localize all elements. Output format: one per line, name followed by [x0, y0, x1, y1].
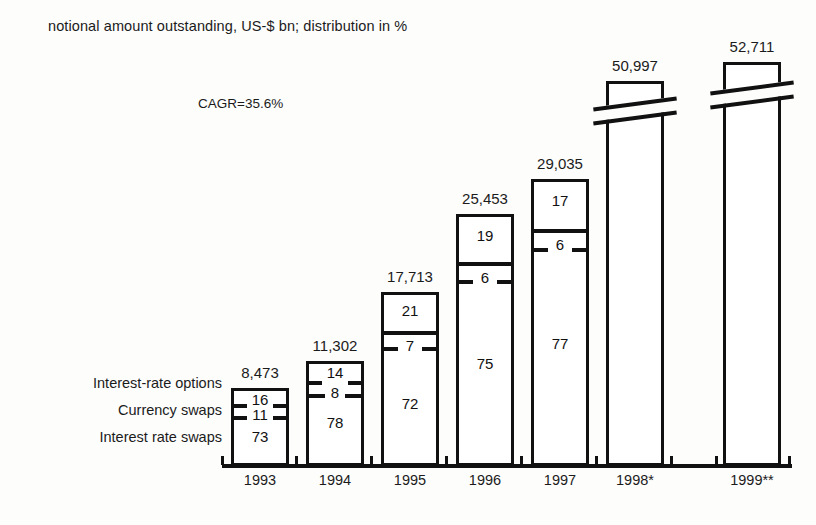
x-axis-tick	[715, 456, 718, 465]
bar-total-label: 52,711	[707, 38, 797, 55]
segment-divider	[534, 229, 586, 233]
bar-total-label: 25,453	[440, 190, 530, 207]
segment-value-label: 72	[381, 395, 439, 412]
bar-1999[interactable]	[723, 62, 781, 466]
x-axis-tick	[295, 456, 298, 465]
bar-total-label: 50,997	[590, 57, 680, 74]
bar-1996[interactable]	[456, 214, 514, 466]
x-axis-label: 1999**	[707, 472, 797, 488]
x-axis-tick	[788, 456, 791, 465]
segment-value-label: 73	[231, 428, 289, 445]
bar-total-label: 11,302	[290, 337, 380, 354]
x-axis-tick	[221, 456, 224, 465]
bar-1997[interactable]	[531, 179, 589, 466]
segment-value-label: 78	[306, 414, 364, 431]
x-axis-label: 1998*	[590, 472, 680, 488]
segment-value-label: 8	[306, 384, 364, 401]
segment-divider	[459, 262, 511, 266]
segment-value-label: 21	[381, 302, 439, 319]
x-axis-tick	[595, 456, 598, 465]
plot-area: 1611738,47319931487811,30219942177217,71…	[0, 0, 816, 525]
bar-total-label: 8,473	[215, 364, 305, 381]
segment-value-label: 11	[231, 406, 289, 423]
x-axis-tick	[670, 456, 673, 465]
segment-value-label: 6	[531, 236, 589, 253]
segment-value-label: 19	[456, 227, 514, 244]
segment-value-label: 6	[456, 269, 514, 286]
x-axis-tick	[370, 456, 373, 465]
x-axis-tick	[445, 456, 448, 465]
chart-canvas: notional amount outstanding, US-$ bn; di…	[0, 0, 816, 525]
bar-1998[interactable]	[606, 81, 664, 466]
segment-value-label: 14	[306, 364, 364, 381]
x-axis-tick	[520, 456, 523, 465]
segment-value-label: 7	[381, 337, 439, 354]
bar-total-label: 29,035	[515, 155, 605, 172]
segment-value-label: 75	[456, 355, 514, 372]
segment-value-label: 17	[531, 192, 589, 209]
bar-total-label: 17,713	[365, 268, 455, 285]
segment-divider	[384, 331, 436, 335]
segment-value-label: 77	[531, 335, 589, 352]
